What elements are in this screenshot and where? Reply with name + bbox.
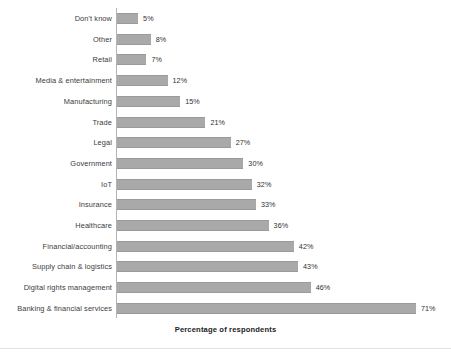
bar[interactable] (117, 96, 180, 107)
bar-row: Government30% (0, 153, 451, 174)
category-label: Retail (93, 49, 113, 70)
bar[interactable] (117, 220, 269, 231)
bar[interactable] (117, 179, 252, 190)
bar-value-label: 42% (299, 241, 314, 252)
bar-value-label: 71% (421, 303, 436, 314)
bar-row: Don't know5% (0, 8, 451, 29)
x-axis-title: Percentage of respondents (0, 325, 451, 334)
bar-value-label: 36% (274, 220, 289, 231)
category-label: IoT (101, 174, 112, 195)
category-label: Trade (92, 112, 112, 133)
bar-row: Manufacturing15% (0, 91, 451, 112)
bar-value-label: 30% (248, 158, 263, 169)
bar[interactable] (117, 241, 294, 252)
bar-row: Banking & financial services71% (0, 298, 451, 319)
bottom-divider (0, 348, 451, 349)
bar-row: Insurance33% (0, 194, 451, 215)
bar-value-label: 46% (316, 282, 331, 293)
category-label: Financial/accounting (43, 236, 112, 257)
bar-row: Media & entertainment12% (0, 70, 451, 91)
bar-row: Other8% (0, 29, 451, 50)
bar[interactable] (117, 158, 243, 169)
bar[interactable] (117, 117, 205, 128)
category-label: Manufacturing (64, 91, 112, 112)
bar-row: Financial/accounting42% (0, 236, 451, 257)
category-label: Banking & financial services (17, 298, 112, 319)
bar[interactable] (117, 199, 256, 210)
bar-value-label: 32% (257, 179, 272, 190)
bar-value-label: 7% (151, 54, 162, 65)
bar-row: IoT32% (0, 174, 451, 195)
bar[interactable] (117, 137, 231, 148)
category-label: Don't know (75, 8, 112, 29)
bar-value-label: 8% (156, 34, 167, 45)
category-label: Digital rights management (24, 277, 112, 298)
category-label: Legal (93, 132, 112, 153)
bar-value-label: 15% (185, 96, 200, 107)
category-label: Media & entertainment (36, 70, 112, 91)
plot-area: Don't know5%Other8%Retail7%Media & enter… (0, 0, 451, 320)
bar[interactable] (117, 34, 151, 45)
bar-row: Trade21% (0, 112, 451, 133)
bar-chart: Don't know5%Other8%Retail7%Media & enter… (0, 0, 451, 354)
bar-value-label: 12% (173, 75, 188, 86)
bar-row: Digital rights management46% (0, 277, 451, 298)
bar-value-label: 27% (236, 137, 251, 148)
category-label: Supply chain & logistics (32, 256, 112, 277)
bar[interactable] (117, 54, 146, 65)
bar[interactable] (117, 282, 311, 293)
bar-row: Legal27% (0, 132, 451, 153)
category-label: Government (70, 153, 112, 174)
category-label: Healthcare (75, 215, 112, 236)
bar-row: Supply chain & logistics43% (0, 256, 451, 277)
bar[interactable] (117, 13, 138, 24)
bar[interactable] (117, 261, 298, 272)
bar-value-label: 5% (143, 13, 154, 24)
bar-value-label: 43% (303, 261, 318, 272)
bar-value-label: 33% (261, 199, 276, 210)
bar-row: Retail7% (0, 49, 451, 70)
bar[interactable] (117, 75, 168, 86)
bar-row: Healthcare36% (0, 215, 451, 236)
bar-value-label: 21% (210, 117, 225, 128)
category-label: Insurance (79, 194, 112, 215)
bar[interactable] (117, 303, 416, 314)
category-label: Other (93, 29, 112, 50)
